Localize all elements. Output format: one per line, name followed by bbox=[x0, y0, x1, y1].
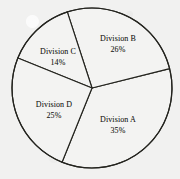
pie-label-percent: 35% bbox=[100, 125, 136, 136]
pie-slices-group bbox=[12, 8, 172, 168]
pie-label-division-c: Division C14% bbox=[40, 47, 76, 68]
pie-label-percent: 26% bbox=[100, 44, 136, 55]
pie-label-name: Division C bbox=[40, 47, 76, 58]
pie-label-percent: 25% bbox=[36, 110, 72, 121]
pie-label-division-b: Division B26% bbox=[100, 34, 136, 55]
pie-label-division-a: Division A35% bbox=[100, 115, 136, 136]
pie-label-name: Division D bbox=[36, 100, 72, 111]
pie-chart-svg bbox=[0, 0, 180, 179]
pie-chart: Division A35%Division B26%Division C14%D… bbox=[0, 0, 180, 179]
pie-label-division-d: Division D25% bbox=[36, 100, 72, 121]
pie-label-percent: 14% bbox=[40, 57, 76, 68]
pie-label-name: Division B bbox=[100, 34, 136, 45]
pie-label-name: Division A bbox=[100, 115, 136, 126]
